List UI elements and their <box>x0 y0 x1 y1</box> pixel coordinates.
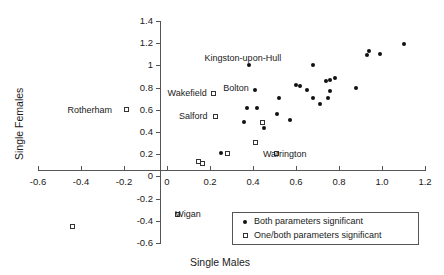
data-point-open <box>70 224 75 229</box>
x-tick-label: 0.6 <box>280 177 312 187</box>
y-tick <box>156 21 161 22</box>
y-tick-label: 0.8 <box>120 83 153 93</box>
data-point-filled <box>305 88 309 92</box>
y-axis-title: Single Females <box>13 88 25 160</box>
y-tick <box>156 88 161 89</box>
data-point-filled <box>328 89 332 93</box>
data-point-filled <box>242 120 246 124</box>
data-point-open <box>213 114 218 119</box>
data-point-filled <box>288 118 292 122</box>
data-point-filled <box>311 63 315 67</box>
y-tick <box>156 243 161 244</box>
x-tick <box>382 166 383 171</box>
data-point-filled <box>326 96 330 100</box>
y-tick <box>156 199 161 200</box>
x-tick <box>210 166 211 171</box>
y-tick-label: 1 <box>120 60 153 70</box>
x-axis-title: Single Males <box>190 256 250 268</box>
x-axis-line <box>38 170 425 171</box>
y-tick-label: 1.4 <box>120 16 153 26</box>
y-tick <box>156 65 161 66</box>
x-tick <box>253 166 254 171</box>
data-point-filled <box>365 53 369 57</box>
x-tick <box>425 166 426 171</box>
y-tick-label: 0 <box>120 171 153 181</box>
x-tick <box>38 166 39 171</box>
data-point-filled <box>311 96 315 100</box>
legend-label: Both parameters significant <box>254 216 363 226</box>
y-tick-label: 1.2 <box>120 38 153 48</box>
point-label: Kingston-upon-Hull <box>205 53 282 63</box>
legend-item: Both parameters significant <box>240 216 363 226</box>
filled-circle-icon <box>240 216 250 226</box>
y-tick-label: -0.2 <box>120 194 153 204</box>
data-point-open <box>211 91 216 96</box>
legend-item: One/both parameters significant <box>240 230 382 240</box>
data-point-filled <box>367 49 371 53</box>
data-point-open <box>253 140 258 145</box>
data-point-filled <box>253 88 257 92</box>
data-point-filled <box>247 63 251 67</box>
y-tick <box>156 110 161 111</box>
x-tick-label: 1.0 <box>366 177 398 187</box>
data-point-open <box>225 151 230 156</box>
y-tick <box>156 154 161 155</box>
x-tick-label: 0.4 <box>237 177 269 187</box>
data-point-filled <box>245 106 249 110</box>
point-label: Wakefield <box>168 88 207 98</box>
x-tick <box>296 166 297 171</box>
data-point-filled <box>328 78 332 82</box>
data-point-open <box>124 107 129 112</box>
point-label: Wigan <box>175 209 201 219</box>
data-point-filled <box>354 86 358 90</box>
data-point-filled <box>333 76 337 80</box>
x-tick <box>81 166 82 171</box>
data-point-filled <box>402 42 406 46</box>
open-square-icon <box>240 230 250 240</box>
data-point-open <box>200 161 205 166</box>
x-tick-label: 0.2 <box>194 177 226 187</box>
y-tick-label: -0.6 <box>120 238 153 248</box>
x-tick-label: 0 <box>151 177 183 187</box>
x-tick-label: -0.6 <box>22 177 54 187</box>
data-point-filled <box>298 84 302 88</box>
point-label: Warrington <box>263 149 307 159</box>
y-tick-label: 0.4 <box>120 127 153 137</box>
data-point-filled <box>219 151 223 155</box>
x-tick <box>339 166 340 171</box>
x-tick-label: 0.8 <box>323 177 355 187</box>
point-label: Rotherham <box>68 105 113 115</box>
data-point-filled <box>275 112 279 116</box>
y-tick-label: 0.2 <box>120 149 153 159</box>
y-tick <box>156 221 161 222</box>
scatter-chart: -0.6-0.4-0.200.20.40.60.81.01.21.41.210.… <box>0 0 444 275</box>
point-label: Bolton <box>223 83 249 93</box>
legend-label: One/both parameters significant <box>254 230 382 240</box>
data-point-filled <box>378 52 382 56</box>
y-tick-label: -0.4 <box>120 216 153 226</box>
x-tick <box>167 166 168 171</box>
x-tick-label: -0.4 <box>65 177 97 187</box>
data-point-filled <box>318 102 322 106</box>
x-tick-label: 1.2 <box>409 177 441 187</box>
data-point-filled <box>277 96 281 100</box>
data-point-filled <box>255 106 259 110</box>
data-point-filled <box>262 126 266 130</box>
point-label: Salford <box>179 111 208 121</box>
y-tick <box>156 43 161 44</box>
data-point-open <box>260 120 265 125</box>
y-tick <box>156 132 161 133</box>
